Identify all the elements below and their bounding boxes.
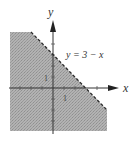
shaded-region	[10, 32, 107, 131]
x-axis-arrow-icon	[108, 85, 119, 91]
x-axis-label: x	[122, 81, 129, 95]
y-axis-label: y	[47, 5, 54, 19]
x-tick-label-1: 1	[63, 94, 67, 103]
inequality-graph: y x y = 3 − x 1 1	[0, 0, 138, 141]
y-tick-label-1: 1	[44, 74, 48, 83]
y-axis-arrow-icon	[50, 20, 56, 32]
equation-label: y = 3 − x	[65, 49, 104, 60]
